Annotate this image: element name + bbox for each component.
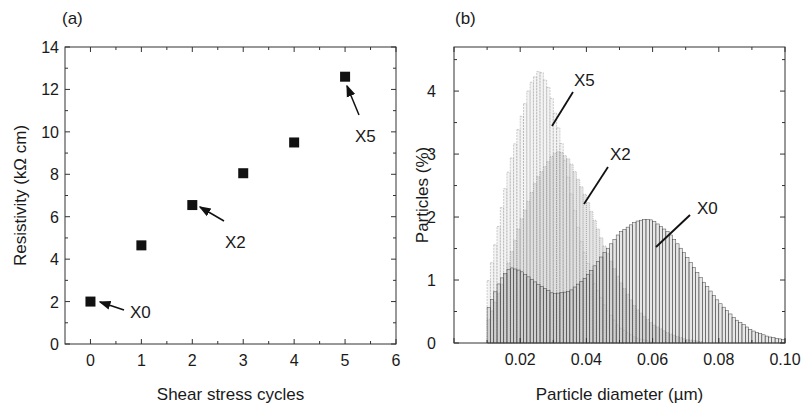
histogram-bar (510, 268, 513, 343)
data-point (85, 297, 95, 307)
histogram-bar (759, 334, 762, 343)
panel-label-b: (b) (455, 9, 476, 28)
histogram-bar (487, 308, 490, 343)
histogram-bar (739, 322, 742, 343)
histogram-bar (573, 287, 576, 343)
histogram-bar (550, 293, 553, 343)
histogram-bar (725, 311, 728, 343)
histogram-bar (735, 320, 738, 343)
histogram-bar (669, 235, 672, 343)
x-tick-label: 6 (392, 352, 401, 369)
histogram-bar (530, 279, 533, 343)
x-tick-label: 0.08 (703, 351, 734, 368)
x-tick-label: 0.06 (637, 351, 668, 368)
histogram-bar (520, 272, 523, 343)
y-tick-label: 14 (41, 39, 59, 56)
histogram-bar (649, 220, 652, 343)
histogram-bar (560, 293, 563, 343)
y-tick-label: 6 (50, 209, 59, 226)
histogram-bar (590, 270, 593, 343)
histogram-bar (696, 272, 699, 343)
histogram-bar (745, 327, 748, 343)
histogram-bar (692, 267, 695, 343)
histogram-bar (686, 257, 689, 343)
y-axis-label: Resistivity (kΩ cm) (11, 125, 30, 266)
histogram-bar (524, 274, 527, 343)
histogram-bar (537, 284, 540, 343)
histogram-bar (732, 317, 735, 343)
histogram-bar (613, 239, 616, 343)
x-axis-label: Particle diameter (µm) (536, 385, 704, 404)
histogram-bar (596, 261, 599, 343)
histogram-bar (682, 253, 685, 343)
histogram-bar (576, 284, 579, 343)
data-point (136, 240, 146, 250)
histogram-bar (768, 337, 771, 343)
histogram-bar (666, 232, 669, 343)
data-point (238, 168, 248, 178)
annotation-line (584, 167, 608, 204)
histogram-bar (633, 223, 636, 343)
histogram-bar (742, 325, 745, 343)
histogram-bar (527, 277, 530, 343)
histogram-bar (672, 239, 675, 343)
histogram-bar (626, 227, 629, 343)
histogram-bar (557, 293, 560, 343)
histogram-bar (507, 270, 510, 343)
histogram-bar (616, 235, 619, 343)
annotation-label: X0 (697, 199, 718, 218)
histogram-bar (600, 257, 603, 343)
histogram-bar (553, 294, 556, 343)
histogram-bar (646, 219, 649, 343)
histogram-bar (639, 220, 642, 343)
figure: (a)012345602468101214Shear stress cycles… (0, 0, 808, 417)
annotation-arrow (200, 207, 224, 221)
histogram-bar (778, 339, 781, 343)
annotation-label: X5 (574, 71, 595, 90)
histogram-bar (547, 291, 550, 343)
chart-a: (a)012345602468101214Shear stress cycles… (11, 9, 401, 404)
annotation-arrow (100, 302, 124, 310)
histogram-bar (729, 314, 732, 343)
histogram-bar (583, 278, 586, 343)
y-tick-label: 0 (427, 335, 436, 352)
histogram-bar (772, 338, 775, 343)
histogram-bar (699, 278, 702, 343)
histogram-bar (722, 307, 725, 343)
annotation-line (552, 92, 573, 126)
histogram-bar (533, 282, 536, 343)
histogram-bar (643, 219, 646, 343)
y-axis-label: Particles (%) (413, 147, 432, 243)
histogram-bar (623, 229, 626, 343)
y-tick-label: 2 (50, 294, 59, 311)
annotation-label: X5 (355, 127, 376, 146)
x-tick-label: 0.02 (505, 351, 536, 368)
histogram-bar (755, 332, 758, 343)
histogram-bar (712, 295, 715, 343)
histogram-bar (514, 269, 517, 343)
histogram-bar (603, 253, 606, 343)
x-tick-label: 0 (86, 352, 95, 369)
histogram-bar (580, 281, 583, 343)
histogram-bar (719, 304, 722, 343)
histogram-bar (620, 232, 623, 343)
histogram-bar (679, 248, 682, 343)
y-tick-label: 0 (50, 336, 59, 353)
histogram-bar (629, 225, 632, 343)
plot-frame (65, 47, 396, 344)
y-tick-label: 8 (50, 166, 59, 183)
histogram-bar (500, 278, 503, 343)
histogram-bar (676, 244, 679, 343)
histogram-bar (497, 284, 500, 343)
annotation-arrow (347, 86, 359, 115)
histogram-bar (709, 291, 712, 343)
histogram-bar (689, 262, 692, 343)
histogram-bar (540, 286, 543, 343)
annotation-label: X2 (610, 145, 631, 164)
y-tick-label: 10 (41, 124, 59, 141)
histogram-bar (715, 300, 718, 343)
histogram-bar (517, 270, 520, 343)
histogram-bar (656, 224, 659, 343)
histogram-bar (570, 290, 573, 343)
x-tick-label: 5 (341, 352, 350, 369)
